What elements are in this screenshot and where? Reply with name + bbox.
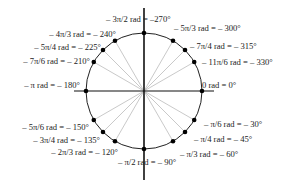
angle-point: [91, 60, 96, 65]
angle-label: – 4π/3 rad = – 240°: [48, 29, 116, 39]
angle-point: [101, 48, 106, 53]
angle-point: [84, 89, 89, 94]
angle-label: – 2π/3 rad = – 120°: [50, 147, 118, 157]
angle-point: [192, 118, 197, 123]
angle-point: [171, 139, 176, 144]
angle-label: – π/4 rad = – 45°: [193, 134, 253, 144]
angle-label: – π rad = – 180°: [23, 80, 80, 90]
angle-point: [113, 38, 118, 43]
angle-point: [101, 130, 106, 135]
angle-label: – π/6 rad = – 30°: [203, 119, 263, 129]
angle-point: [192, 60, 197, 65]
angle-point: [91, 118, 96, 123]
angle-point: [183, 130, 188, 135]
angle-label: – π/3 rad = – 60°: [179, 149, 239, 159]
angle-point: [183, 48, 188, 53]
angle-label: – 5π/6 rad = – 150°: [21, 122, 89, 132]
angle-point: [113, 139, 118, 144]
angle-point: [142, 147, 147, 152]
angle-label: – 7π/6 rad = – 210°: [22, 56, 90, 66]
angle-label: 0 rad = 0°: [202, 80, 237, 90]
angle-label: – π/2 rad = – 90°: [117, 157, 177, 167]
angle-label: – 5π/4 rad = – 225°: [33, 42, 101, 52]
unit-circle-diagram: 0 rad = 0°– π/6 rad = – 30°– π/4 rad = –…: [0, 0, 293, 183]
angle-label: – 5π/3 rad = – 300°: [173, 23, 241, 33]
angle-point: [171, 38, 176, 43]
angle-label: – 7π/4 rad = – 315°: [189, 41, 257, 51]
angle-label: – 3π/4 rad = – 135°: [32, 135, 100, 145]
angle-label: – 11π/6 rad = – 330°: [201, 57, 273, 67]
angle-point: [142, 31, 147, 36]
angle-label: – 3π/2 rad = –270°: [105, 14, 171, 24]
